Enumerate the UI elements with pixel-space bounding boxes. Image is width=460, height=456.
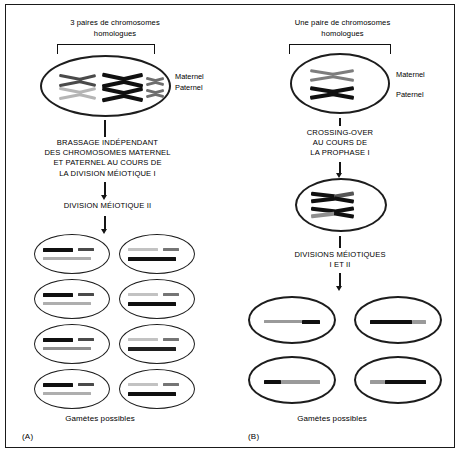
panel-b-label-maternal: Maternel: [396, 70, 425, 79]
panel-b-label-paternal: Paternel: [396, 90, 424, 99]
panel-a-step2-line1: DIVISION MÉIOTIQUE II: [0, 201, 215, 211]
panel-b-arrow-1: [339, 118, 341, 126]
gamete-cell: [119, 234, 195, 274]
panel-b-step1-text: CROSSING-OVER AU COURS DE LA PROPHASE I: [230, 128, 450, 159]
panel-a-parent-cell: [40, 55, 171, 117]
meiosis-figure: 3 paires de chromosomes homologues: [0, 0, 460, 456]
gamete-cell: [354, 296, 442, 344]
panel-a-step1-line4: LA DIVISION MÉIOTIQUE I: [0, 169, 215, 179]
panel-a: 3 paires de chromosomes homologues: [0, 0, 230, 456]
panel-b-step1-line3: LA PROPHASE I: [230, 148, 450, 158]
panel-b-step1-line1: CROSSING-OVER: [230, 128, 450, 138]
panel-a-step1-line1: BRASSAGE INDÉPENDANT: [0, 138, 215, 148]
panel-b-crossover-chromosomes: [297, 180, 385, 230]
panel-a-bracket: [57, 44, 155, 54]
panel-b-crossover-cell: [295, 178, 387, 232]
gamete-cell: [248, 356, 336, 404]
gamete-cell: [119, 279, 195, 319]
panel-b-heading-line1: Une paire de chromosomes: [230, 18, 455, 29]
panel-b-heading: Une paire de chromosomes homologues: [230, 18, 455, 39]
gamete-cell: [34, 234, 110, 274]
panel-a-step1-text: BRASSAGE INDÉPENDANT DES CHROMOSOMES MAT…: [0, 138, 215, 179]
panel-b-heading-line2: homologues: [230, 29, 455, 40]
panel-a-heading: 3 paires de chromosomes homologues: [0, 18, 230, 39]
panel-a-gametes-label: Gamètes possibles: [0, 414, 215, 423]
panel-b-step2-text: DIVISIONS MÉIOTIQUES I ET II: [230, 250, 450, 270]
panel-b: Une paire de chromosomes homologues: [230, 0, 460, 456]
panel-a-parent-chromosomes: [42, 57, 169, 115]
panel-a-letter: (A): [22, 432, 33, 441]
panel-a-label-paternal: Paternel: [175, 83, 203, 92]
panel-a-step1-line3: ET PATERNEL AU COURS DE: [0, 158, 215, 168]
panel-b-arrow-4: [339, 273, 341, 287]
panel-b-arrow-3: [339, 236, 341, 248]
panel-a-arrow-2: [104, 182, 106, 196]
gamete-cell: [34, 369, 110, 409]
panel-b-arrow-2: [339, 162, 341, 174]
gamete-cell: [119, 369, 195, 409]
panel-a-label-maternal: Maternel: [175, 72, 204, 81]
panel-b-step2-line1: DIVISIONS MÉIOTIQUES: [230, 250, 450, 260]
gamete-cell: [119, 324, 195, 364]
panel-a-step1-line2: DES CHROMOSOMES MATERNEL: [0, 148, 215, 158]
panel-a-arrow-3: [104, 216, 106, 230]
panel-a-heading-line1: 3 paires de chromosomes: [0, 18, 230, 29]
gamete-cell: [354, 356, 442, 404]
panel-a-heading-line2: homologues: [0, 29, 230, 40]
panel-b-step2-line2: I ET II: [230, 260, 450, 270]
panel-b-step1-line2: AU COURS DE: [230, 138, 450, 148]
panel-a-arrow-1: [104, 120, 106, 137]
gamete-cell: [34, 279, 110, 319]
panel-b-parent-chromosomes: [292, 55, 388, 112]
panel-b-letter: (B): [248, 432, 259, 441]
gamete-cell: [248, 296, 336, 344]
panel-b-parent-cell: [290, 53, 390, 114]
panel-b-gametes-label: Gamètes possibles: [217, 414, 447, 423]
panel-a-step2-text: DIVISION MÉIOTIQUE II: [0, 201, 215, 211]
gamete-cell: [34, 324, 110, 364]
